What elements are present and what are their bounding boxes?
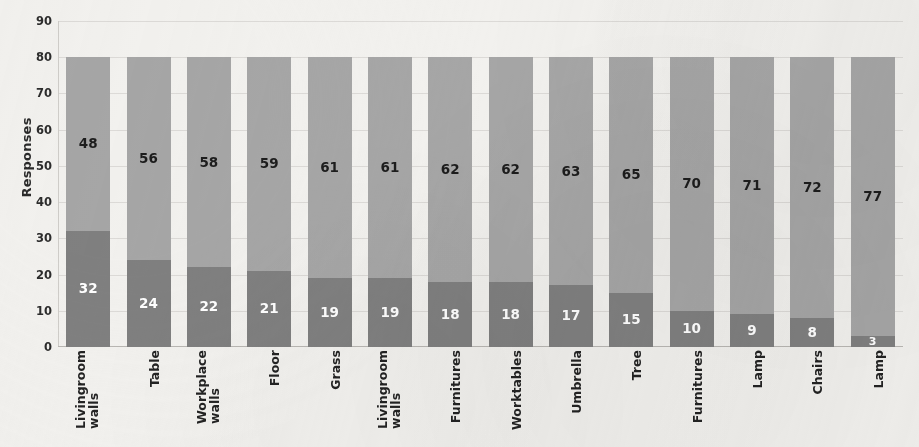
bar-value-label: 18 (501, 308, 520, 322)
bar-group[interactable]: 6119 (360, 21, 420, 347)
bar-value-label: 62 (441, 163, 460, 177)
bar-segment-upper[interactable]: 58 (187, 57, 231, 267)
x-tick-cell: Umbrella (541, 350, 601, 445)
bar-segment-lower[interactable]: 24 (127, 260, 171, 347)
bar-segment-lower[interactable]: 21 (247, 271, 291, 347)
bar-group[interactable]: 5822 (179, 21, 239, 347)
bar-stack[interactable]: 6218 (489, 21, 533, 347)
x-tick-label: Table (149, 350, 162, 387)
bar-stack[interactable]: 6515 (609, 21, 653, 347)
bar-value-label: 19 (320, 306, 339, 320)
bar-value-label: 65 (622, 168, 641, 182)
bar-group[interactable]: 773 (842, 21, 902, 347)
x-tick-cell: Chairs (782, 350, 842, 445)
bar-group[interactable]: 7010 (661, 21, 721, 347)
bar-value-label: 77 (863, 190, 882, 204)
bar-segment-lower[interactable]: 10 (670, 311, 714, 347)
x-tick-label-line: Chairs (810, 350, 825, 394)
bar-value-label: 61 (320, 161, 339, 175)
x-tick-label: Tree (631, 350, 644, 380)
bar-segment-lower[interactable]: 15 (609, 293, 653, 347)
bar-value-label: 48 (79, 137, 98, 151)
bar-group[interactable]: 719 (722, 21, 782, 347)
x-tick-cell: Lamp (722, 350, 782, 445)
plot-area: 4832562458225921611961196218621863176515… (58, 21, 903, 347)
bar-segment-upper[interactable]: 59 (247, 57, 291, 271)
bar-group[interactable]: 5624 (118, 21, 178, 347)
bar-segment-upper[interactable]: 56 (127, 57, 171, 260)
bar-value-label: 62 (501, 163, 520, 177)
bar-stack[interactable]: 4832 (66, 21, 110, 347)
bar-segment-lower[interactable]: 32 (66, 231, 110, 347)
bar-group[interactable]: 6218 (420, 21, 480, 347)
bar-value-label: 10 (682, 322, 701, 336)
bar-value-label: 21 (260, 302, 279, 316)
x-tick-label-line: Table (147, 350, 162, 387)
x-tick-label-line: Umbrella (569, 350, 584, 414)
bar-stack[interactable]: 7010 (670, 21, 714, 347)
bar-segment-upper[interactable]: 62 (428, 57, 472, 282)
bar-stack[interactable]: 6119 (308, 21, 352, 347)
bar-value-label: 18 (441, 308, 460, 322)
bar-segment-upper[interactable]: 77 (851, 57, 895, 336)
bar-value-label: 61 (380, 161, 399, 175)
x-tick-cell: Grass (299, 350, 359, 445)
bar-stack[interactable]: 5822 (187, 21, 231, 347)
bar-segment-lower[interactable]: 3 (851, 336, 895, 347)
bar-segment-upper[interactable]: 62 (489, 57, 533, 282)
x-tick-label-line: Lamp (871, 350, 886, 388)
x-tick-cell: Livingroomwalls (360, 350, 420, 445)
bar-value-label: 32 (79, 282, 98, 296)
bar-stack[interactable]: 719 (730, 21, 774, 347)
bar-stack[interactable]: 6218 (428, 21, 472, 347)
bar-segment-lower[interactable]: 17 (549, 285, 593, 347)
x-tick-label: Workplacewalls (196, 350, 222, 424)
bar-segment-upper[interactable]: 63 (549, 57, 593, 285)
bar-group[interactable]: 6317 (541, 21, 601, 347)
bar-group[interactable]: 728 (782, 21, 842, 347)
bar-stack[interactable]: 5624 (127, 21, 171, 347)
bar-segment-lower[interactable]: 22 (187, 267, 231, 347)
bar-group[interactable]: 6119 (299, 21, 359, 347)
bar-stack[interactable]: 728 (790, 21, 834, 347)
x-tick-cell: Tree (601, 350, 661, 445)
bar-segment-upper[interactable]: 48 (66, 57, 110, 231)
x-tick-label-line: Worktables (509, 350, 524, 430)
bar-value-label: 58 (199, 156, 218, 170)
bar-value-label: 8 (808, 326, 817, 340)
bar-segment-lower[interactable]: 19 (368, 278, 412, 347)
x-tick-label-line: Floor (267, 350, 282, 386)
bar-segment-lower[interactable]: 19 (308, 278, 352, 347)
bar-stack[interactable]: 6119 (368, 21, 412, 347)
bar-segment-upper[interactable]: 65 (609, 57, 653, 292)
bar-segment-upper[interactable]: 72 (790, 57, 834, 318)
x-tick-label: Lamp (873, 350, 886, 388)
bar-stack[interactable]: 773 (851, 21, 895, 347)
bar-segment-lower[interactable]: 8 (790, 318, 834, 347)
bar-value-label: 72 (803, 181, 822, 195)
bar-stack[interactable]: 5921 (247, 21, 291, 347)
x-tick-label: Furnitures (692, 350, 705, 423)
bar-segment-upper[interactable]: 61 (308, 57, 352, 278)
bar-segment-lower[interactable]: 18 (428, 282, 472, 347)
bar-segment-lower[interactable]: 18 (489, 282, 533, 347)
y-tick-label: 60 (6, 123, 52, 137)
y-tick-label: 50 (6, 159, 52, 173)
x-tick-label: Livingroomwalls (377, 350, 403, 429)
y-tick-label: 90 (6, 14, 52, 28)
bar-group[interactable]: 4832 (58, 21, 118, 347)
bar-segment-upper[interactable]: 61 (368, 57, 412, 278)
x-tick-label-line: Lamp (750, 350, 765, 388)
bar-segment-upper[interactable]: 71 (730, 57, 774, 314)
bar-group[interactable]: 6218 (480, 21, 540, 347)
bar-group[interactable]: 5921 (239, 21, 299, 347)
x-tick-label-line: walls (390, 350, 403, 429)
x-tick-label: Grass (330, 350, 343, 390)
x-tick-cell: Workplacewalls (179, 350, 239, 445)
bar-value-label: 70 (682, 177, 701, 191)
bar-segment-lower[interactable]: 9 (730, 314, 774, 347)
bar-value-label: 19 (380, 306, 399, 320)
bar-segment-upper[interactable]: 70 (670, 57, 714, 311)
bar-stack[interactable]: 6317 (549, 21, 593, 347)
bar-group[interactable]: 6515 (601, 21, 661, 347)
